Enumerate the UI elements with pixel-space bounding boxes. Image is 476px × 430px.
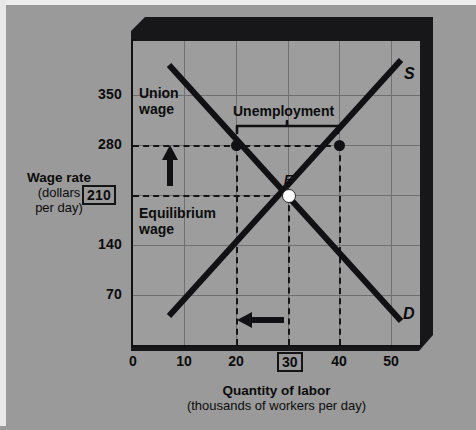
y-axis-title-line1: Wage rate [6,170,112,185]
figure-root: Union wage Equilibrium wage Unemployment… [0,0,476,430]
x-tick-30-highlight: 30 [277,352,303,372]
x-tick-50: 50 [371,353,411,369]
y-tick-70: 70 [76,286,122,302]
page-bottom-edge [0,426,476,430]
x-tick-10: 10 [164,353,204,369]
x-tick-40: 40 [319,353,359,369]
equilibrium-wage-line1: Equilibrium [139,205,216,221]
supply-curve-label: S [404,65,415,83]
page-top-edge [0,0,476,5]
marker-quantity-supplied [334,140,345,151]
y-axis-title: Wage rate (dollars per day) [6,170,112,215]
y-tick-350: 350 [76,86,122,102]
marker-quantity-demanded [231,140,242,151]
equilibrium-wage-line2: wage [139,221,216,237]
up-arrow-icon [162,145,178,186]
y-axis-title-line3: per day) [6,200,112,215]
supply-curve [169,60,401,316]
equilibrium-point-label: E [284,172,293,187]
x-tick-20: 20 [216,353,256,369]
left-arrow-icon [237,312,284,328]
union-wage-line2: wage [139,101,179,117]
y-tick-140: 140 [76,236,122,252]
y-tick-280: 280 [76,136,122,152]
union-wage-line1: Union [139,85,179,101]
demand-curve-label: D [403,305,415,323]
unemployment-bracket [237,121,338,133]
y-axis-title-line2: (dollars [6,185,112,200]
x-tick-0: 0 [113,353,153,369]
x-axis-title: Quantity of labor (thousands of workers … [133,383,420,413]
unemployment-label: Unemployment [233,103,334,119]
page-left-edge [0,0,6,430]
equilibrium-wage-label: Equilibrium wage [139,205,216,237]
marker-equilibrium [282,189,296,203]
plot-area: Union wage Equilibrium wage Unemployment… [133,41,420,345]
x-axis-title-line1: Quantity of labor [133,383,420,398]
union-wage-label: Union wage [139,85,179,117]
x-axis-title-line2: (thousands of workers per day) [133,398,420,413]
